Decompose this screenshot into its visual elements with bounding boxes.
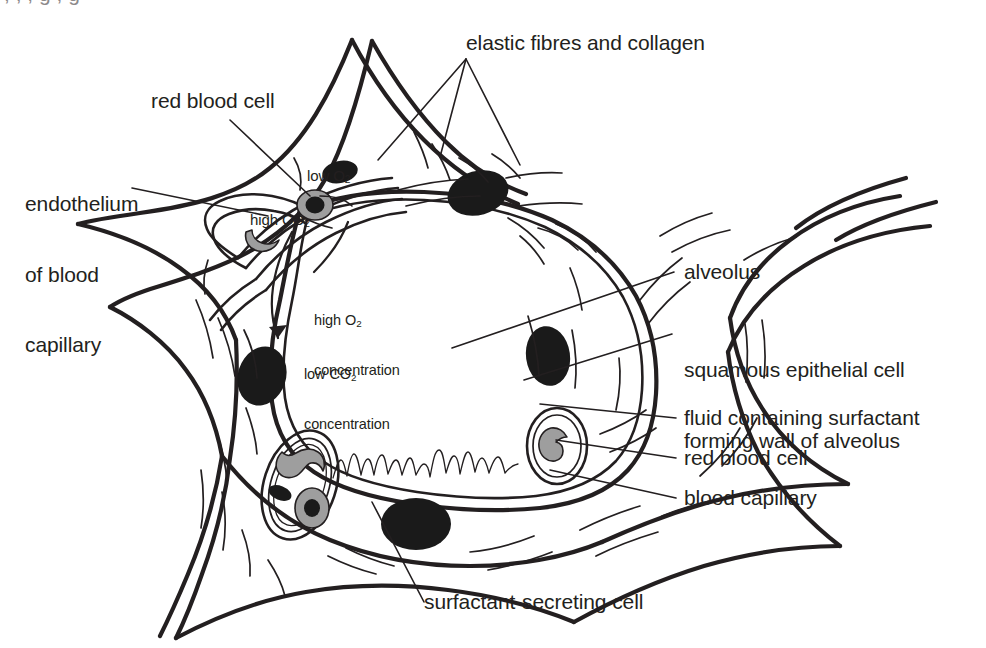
label-high-o2-text: high O	[314, 312, 356, 328]
capillary-right	[527, 408, 587, 484]
label-surfactant-secreting-cell: surfactant-secreting cell	[424, 590, 643, 614]
label-endothelium-line3: capillary	[25, 333, 138, 357]
label-high-co2-subscript: 2	[304, 218, 310, 229]
label-low-co2-line2: concentration	[304, 416, 390, 432]
label-high-o2-subscript: 2	[356, 319, 361, 330]
label-red-blood-cell-top: red blood cell	[151, 89, 275, 113]
label-low-o2: low O2	[307, 168, 350, 186]
nucleus	[381, 498, 451, 550]
label-endothelium-line1: endothelium	[25, 192, 138, 216]
label-red-blood-cell-right: red blood cell	[684, 446, 808, 470]
label-high-co2: high CO2	[250, 212, 310, 230]
label-endothelium-line2: of blood	[25, 263, 138, 287]
alveolus-diagram: , , , g , g .ink { fill:none; stroke:#23…	[0, 0, 986, 648]
label-low-o2-subscript: 2	[345, 174, 351, 185]
label-low-co2-text: low CO	[304, 366, 351, 382]
label-high-o2-line1: high O2	[314, 312, 400, 329]
label-squamous-line1: squamous epithelial cell	[684, 358, 905, 382]
label-low-o2-text: low O	[307, 167, 345, 184]
label-elastic-fibres-and-collagen: elastic fibres and collagen	[466, 31, 705, 55]
label-alveolus: alveolus	[684, 260, 760, 284]
label-fluid-containing-surfactant: fluid containing surfactant	[684, 406, 919, 430]
label-low-co2-line1: low CO2	[304, 366, 390, 383]
label-blood-capillary: blood capillary	[684, 486, 817, 510]
label-low-co2-subscript: 2	[351, 373, 356, 384]
red-blood-cell	[295, 488, 329, 528]
label-high-co2-text: high CO	[250, 211, 304, 228]
label-low-co2-concentration: low CO2 concentration	[304, 334, 390, 465]
label-endothelium-of-blood-capillary: endothelium of blood capillary	[25, 145, 138, 404]
red-blood-cell	[539, 428, 567, 461]
